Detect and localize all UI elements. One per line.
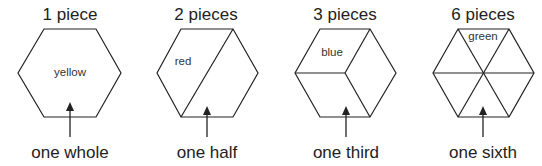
piece-label-green: green — [468, 30, 497, 42]
arrowhead-icon — [342, 106, 350, 115]
arrowhead-icon — [479, 106, 487, 115]
caption: one half — [177, 143, 238, 162]
panel-title: 6 pieces — [451, 5, 514, 24]
panel-one-sixth: 6 pieces green one sixth — [433, 5, 534, 162]
arrowhead-icon — [203, 106, 211, 115]
panel-one-third: 3 pieces blue one third — [295, 5, 396, 162]
panel-one-half: 2 pieces red one half — [157, 5, 258, 162]
panel-title: 3 pieces — [313, 5, 376, 24]
divider-line — [345, 73, 370, 117]
piece-label-red: red — [175, 55, 192, 67]
divider-line — [345, 29, 370, 73]
panel-one-whole: 1 piece yellow one whole — [18, 5, 121, 162]
caption: one sixth — [449, 143, 517, 162]
divider-line — [181, 29, 233, 117]
panel-title: 2 pieces — [174, 5, 237, 24]
piece-label-blue: blue — [321, 46, 343, 58]
caption: one third — [313, 143, 379, 162]
caption: one whole — [31, 143, 109, 162]
piece-label-yellow: yellow — [54, 66, 87, 78]
fraction-hexagons-diagram: 1 piece yellow one whole 2 pieces red on… — [0, 0, 542, 166]
arrowhead-icon — [66, 102, 74, 111]
panel-title: 1 piece — [43, 5, 98, 24]
